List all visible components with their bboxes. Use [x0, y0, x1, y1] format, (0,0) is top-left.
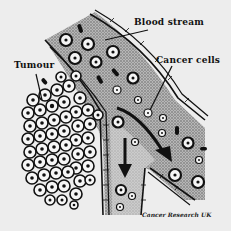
label-cancer-cells: Cancer cells — [156, 55, 220, 65]
diagram-canvas: Blood stream Cancer cells Tumour Cancer … — [0, 0, 231, 231]
diagram-illustration — [0, 0, 231, 231]
label-tumour: Tumour — [14, 60, 54, 70]
credit-text: Cancer Research UK — [142, 211, 211, 218]
label-blood-stream: Blood stream — [134, 17, 204, 27]
